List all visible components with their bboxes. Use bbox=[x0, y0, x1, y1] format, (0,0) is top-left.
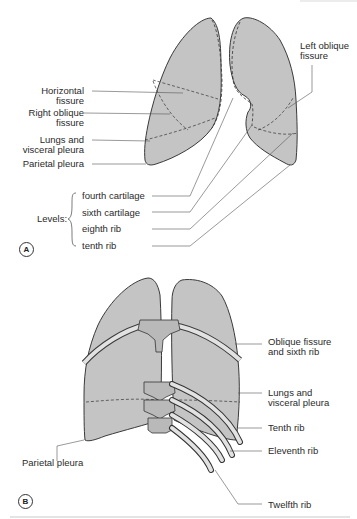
levels-title: Levels: bbox=[37, 214, 67, 224]
bottom-edge-rule bbox=[10, 516, 350, 518]
label-oblique-fissure-sixth-rib: Oblique fissure and sixth rib bbox=[268, 337, 331, 357]
top-edge-rule bbox=[300, 0, 357, 2]
label-parietal-pleura-b: Parietal pleura bbox=[22, 458, 83, 468]
label-twelfth-rib: Twelfth rib bbox=[268, 500, 311, 510]
label-line: fissure bbox=[20, 96, 84, 106]
level-tenth-rib: tenth rib bbox=[82, 241, 116, 251]
label-lungs-visceral-pleura-a: Lungs and visceral pleura bbox=[5, 135, 84, 155]
label-horizontal-fissure: Horizontal fissure bbox=[20, 86, 84, 106]
label-line: and sixth rib bbox=[268, 347, 331, 357]
label-line: fissure bbox=[10, 118, 84, 128]
level-sixth-cartilage: sixth cartilage bbox=[82, 208, 140, 218]
label-tenth-rib: Tenth rib bbox=[268, 423, 304, 433]
level-eighth-rib: eighth rib bbox=[82, 224, 121, 234]
panel-b-drawing bbox=[0, 0, 357, 519]
label-parietal-pleura-a: Parietal pleura bbox=[5, 159, 84, 169]
label-line: visceral pleura bbox=[5, 145, 84, 155]
label-line: fissure bbox=[300, 51, 349, 61]
panel-a-badge: A bbox=[19, 242, 34, 257]
level-fourth-cartilage: fourth cartilage bbox=[82, 191, 145, 201]
label-eleventh-rib: Eleventh rib bbox=[268, 446, 318, 456]
label-lungs-visceral-pleura-b: Lungs and visceral pleura bbox=[268, 388, 329, 408]
panel-b-badge: B bbox=[18, 494, 33, 509]
label-right-oblique-fissure: Right oblique fissure bbox=[10, 108, 84, 128]
label-line: visceral pleura bbox=[268, 398, 329, 408]
label-left-oblique-fissure: Left oblique fissure bbox=[300, 41, 349, 61]
